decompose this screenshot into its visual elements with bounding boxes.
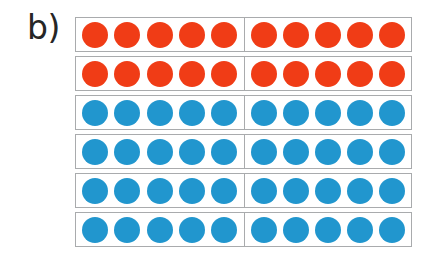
counter-dot: [347, 100, 373, 126]
counter-dot: [347, 22, 373, 48]
counter-dot: [251, 22, 277, 48]
counter-dot: [114, 139, 140, 165]
counter-dot: [82, 61, 108, 87]
counter-dot: [147, 100, 173, 126]
counter-dot: [251, 217, 277, 243]
counter-dot: [179, 178, 205, 204]
counter-dot: [379, 22, 405, 48]
counter-rod: [75, 173, 412, 208]
counter-dot: [315, 100, 341, 126]
counter-dot: [147, 139, 173, 165]
counter-dot: [179, 22, 205, 48]
counter-rod: [75, 17, 412, 52]
counter-dot: [379, 139, 405, 165]
counter-dot: [211, 217, 237, 243]
counter-dot: [114, 22, 140, 48]
counter-dot: [211, 100, 237, 126]
counter-dot: [179, 61, 205, 87]
counter-dot: [283, 61, 309, 87]
counter-dot: [283, 22, 309, 48]
counter-dot: [283, 139, 309, 165]
counter-dot: [147, 22, 173, 48]
rod-half-left: [76, 174, 244, 207]
rod-half-left: [76, 96, 244, 129]
counter-dot: [379, 178, 405, 204]
counter-dot: [283, 217, 309, 243]
counter-dot: [315, 22, 341, 48]
counter-dot: [315, 61, 341, 87]
counter-dot: [82, 217, 108, 243]
counter-dot: [283, 100, 309, 126]
counter-dot: [147, 217, 173, 243]
rod-half-left: [76, 135, 244, 168]
counter-dot: [347, 139, 373, 165]
counter-dot: [251, 61, 277, 87]
counter-dot: [379, 217, 405, 243]
rod-stack: [75, 17, 412, 247]
counter-dot: [347, 178, 373, 204]
rod-half-right: [244, 57, 412, 90]
rod-half-right: [244, 18, 412, 51]
rod-half-right: [244, 135, 412, 168]
counter-dot: [114, 178, 140, 204]
counter-dot: [82, 139, 108, 165]
counter-dot: [379, 61, 405, 87]
counter-dot: [114, 217, 140, 243]
counter-dot: [82, 22, 108, 48]
rod-half-left: [76, 18, 244, 51]
counter-dot: [82, 178, 108, 204]
counter-dot: [251, 178, 277, 204]
counter-dot: [114, 61, 140, 87]
counter-dot: [82, 100, 108, 126]
counter-dot: [283, 178, 309, 204]
counter-rod: [75, 95, 412, 130]
counter-dot: [347, 217, 373, 243]
rod-half-left: [76, 213, 244, 246]
counter-rod: [75, 56, 412, 91]
counter-dot: [251, 100, 277, 126]
counter-dot: [211, 61, 237, 87]
counter-rod: [75, 134, 412, 169]
counter-dot: [315, 139, 341, 165]
counter-rod: [75, 212, 412, 247]
panel-label: b): [27, 11, 60, 44]
counter-dot: [211, 139, 237, 165]
rod-half-right: [244, 213, 412, 246]
counter-dot: [211, 178, 237, 204]
counter-rods-figure: b): [0, 0, 427, 260]
counter-dot: [179, 139, 205, 165]
rod-half-right: [244, 174, 412, 207]
counter-dot: [179, 100, 205, 126]
counter-dot: [315, 217, 341, 243]
counter-dot: [315, 178, 341, 204]
counter-dot: [251, 139, 277, 165]
counter-dot: [211, 22, 237, 48]
counter-dot: [179, 217, 205, 243]
counter-dot: [147, 61, 173, 87]
counter-dot: [147, 178, 173, 204]
counter-dot: [379, 100, 405, 126]
rod-half-right: [244, 96, 412, 129]
counter-dot: [114, 100, 140, 126]
rod-half-left: [76, 57, 244, 90]
counter-dot: [347, 61, 373, 87]
